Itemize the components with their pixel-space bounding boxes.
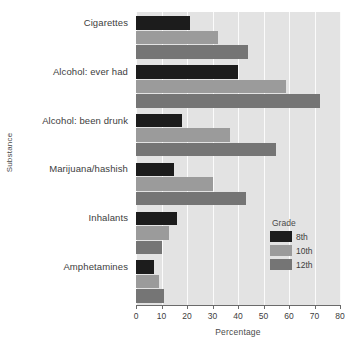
bar-12th-cigarettes bbox=[136, 45, 248, 59]
x-tick-label-20: 20 bbox=[182, 311, 191, 321]
y-axis-label-alcohol-ever-had: Alcohol: ever had bbox=[53, 66, 128, 77]
bar-10th-amphetamines bbox=[136, 275, 159, 289]
x-tick-label-0: 0 bbox=[134, 311, 139, 321]
x-tick bbox=[136, 305, 137, 309]
bar-12th-marijuana-hashish bbox=[136, 192, 246, 206]
x-tick-label-30: 30 bbox=[208, 311, 217, 321]
bar-12th-inhalants bbox=[136, 241, 162, 255]
x-tick-label-40: 40 bbox=[233, 311, 242, 321]
legend-label-12th: 12th bbox=[296, 260, 313, 270]
bar-10th-marijuana-hashish bbox=[136, 177, 213, 191]
legend-swatch-10th bbox=[270, 245, 292, 256]
y-axis-label-cigarettes: Cigarettes bbox=[84, 17, 128, 28]
x-tick-label-80: 80 bbox=[335, 311, 344, 321]
x-tick-label-60: 60 bbox=[284, 311, 293, 321]
gridline bbox=[315, 12, 316, 305]
x-tick bbox=[162, 305, 163, 309]
bar-10th-alcohol-ever-had bbox=[136, 80, 286, 94]
bar-8th-amphetamines bbox=[136, 260, 154, 274]
x-tick bbox=[340, 305, 341, 309]
y-axis-label-marijuana-hashish: Marijuana/hashish bbox=[49, 163, 128, 174]
legend-title: Grade bbox=[270, 218, 313, 228]
bar-10th-alcohol-been-drunk bbox=[136, 128, 230, 142]
legend-item-12th: 12th bbox=[270, 259, 313, 270]
bar-10th-cigarettes bbox=[136, 31, 218, 45]
bar-12th-amphetamines bbox=[136, 289, 164, 303]
x-tick bbox=[213, 305, 214, 309]
x-tick bbox=[289, 305, 290, 309]
bar-8th-cigarettes bbox=[136, 16, 190, 30]
y-axis-label-amphetamines: Amphetamines bbox=[63, 261, 128, 272]
x-tick bbox=[187, 305, 188, 309]
bar-8th-alcohol-ever-had bbox=[136, 65, 238, 79]
legend-item-10th: 10th bbox=[270, 245, 313, 256]
gridline bbox=[264, 12, 265, 305]
y-axis-category-labels: CigarettesAlcohol: ever hadAlcohol: been… bbox=[0, 12, 132, 305]
x-tick-label-70: 70 bbox=[310, 311, 319, 321]
bar-10th-inhalants bbox=[136, 226, 169, 240]
x-tick bbox=[238, 305, 239, 309]
bar-12th-alcohol-ever-had bbox=[136, 94, 320, 108]
bar-12th-alcohol-been-drunk bbox=[136, 143, 276, 157]
legend-label-8th: 8th bbox=[296, 232, 308, 242]
x-axis-title: Percentage bbox=[136, 327, 340, 337]
x-tick bbox=[264, 305, 265, 309]
y-axis-label-alcohol-been-drunk: Alcohol: been drunk bbox=[42, 115, 128, 126]
y-axis-label-inhalants: Inhalants bbox=[89, 212, 128, 223]
legend-swatch-8th bbox=[270, 231, 292, 242]
legend-swatch-12th bbox=[270, 259, 292, 270]
bar-8th-inhalants bbox=[136, 212, 177, 226]
bar-8th-marijuana-hashish bbox=[136, 163, 174, 177]
x-tick-label-50: 50 bbox=[259, 311, 268, 321]
bar-chart-figure: Substance CigarettesAlcohol: ever hadAlc… bbox=[0, 0, 363, 348]
legend: Grade 8th10th12th bbox=[270, 218, 313, 273]
x-tick-label-10: 10 bbox=[157, 311, 166, 321]
legend-entries: 8th10th12th bbox=[270, 231, 313, 270]
gridline bbox=[340, 12, 341, 305]
legend-item-8th: 8th bbox=[270, 231, 313, 242]
x-tick bbox=[315, 305, 316, 309]
legend-label-10th: 10th bbox=[296, 246, 313, 256]
bar-8th-alcohol-been-drunk bbox=[136, 114, 182, 128]
